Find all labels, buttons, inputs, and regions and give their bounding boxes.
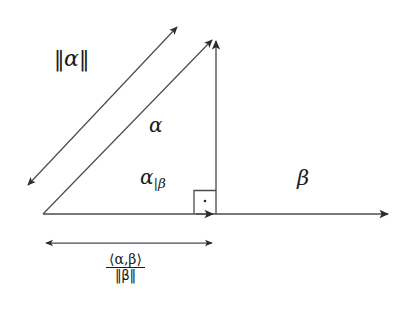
label-alpha: α <box>149 115 163 135</box>
fraction: ⟨α,β⟩ ‖β‖ <box>106 252 145 282</box>
vector-projection-diagram: ‖α‖ α α|β β ⟨α,β⟩ ‖β‖ <box>0 0 415 309</box>
alpha-norm-open-bars: ‖ <box>54 47 64 71</box>
alpha-norm-measure-arrow <box>28 27 177 185</box>
fraction-numerator: ⟨α,β⟩ <box>106 252 145 268</box>
label-projection-length: ⟨α,β⟩ ‖β‖ <box>106 252 145 282</box>
label-alpha-projection: α|β <box>140 167 166 190</box>
alpha-norm-symbol: α <box>64 46 79 71</box>
fraction-denominator: ‖β‖ <box>106 268 145 282</box>
alpha-projection-subscript: |β <box>154 175 166 191</box>
label-alpha-norm: ‖α‖ <box>54 48 89 70</box>
right-angle-dot <box>204 200 207 203</box>
alpha-norm-close-bars: ‖ <box>79 47 89 71</box>
alpha-projection-symbol: α <box>140 165 154 189</box>
label-beta: β <box>297 168 309 189</box>
